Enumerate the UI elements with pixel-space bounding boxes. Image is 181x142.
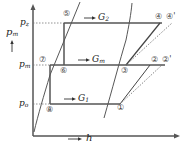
gm-arrow-icon [86,58,90,61]
point-1: ① [117,104,124,112]
point-2-prime: ②' [162,56,171,64]
g1-label: G1 [78,94,89,103]
p-arrow-icon [10,40,13,44]
g1-label-sub: 1 [85,96,89,103]
pz-label-sub: z [26,20,29,27]
po-label-sub: o [25,101,29,108]
g2-arrow-icon [92,16,96,19]
point-6: ⑥ [60,67,67,75]
saturated-liquid-line [34,2,80,132]
pm-label: pm [19,60,30,69]
y-axis-label-sub: m [12,30,18,37]
point-7: ⑦ [39,56,46,64]
y-axis-label: pm [6,27,18,37]
h-arrow-icon [78,137,82,140]
point-4: ④ [155,13,162,21]
x-axis-label-text: h [86,132,92,142]
point-4-prime: ④' [166,13,175,21]
po-label: po [19,99,28,108]
pz-label: pz [20,18,29,27]
g1-arrow-icon [72,97,76,100]
gm-label: Gm [92,55,105,64]
point-5: ⑤ [63,10,70,18]
x-axis-label: h [86,133,92,142]
g2-label: G2 [98,13,109,22]
gm-label-sub: m [99,57,105,64]
pm-label-sub: m [25,62,31,69]
g2-label-sub: 2 [105,15,109,22]
point-3: ③ [121,67,128,75]
y-axis-arrow-icon [31,4,36,10]
point-8: ⑧ [46,106,53,114]
point-2: ② [151,56,158,64]
x-axis-arrow-icon [174,134,180,139]
